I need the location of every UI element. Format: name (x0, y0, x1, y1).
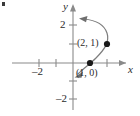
point-2-1-dot (104, 41, 110, 47)
y-axis (70, 4, 76, 110)
y-tick-label-2: 2 (60, 19, 66, 30)
x-axis (12, 60, 126, 66)
point-label-2-1: (2, 1) (77, 38, 99, 48)
parabola-graph-figure: y x –2 2 –2 (2, 1) (1, 0) (0, 0, 140, 116)
point-1-0-dot (87, 60, 93, 66)
y-axis-label: y (63, 1, 68, 12)
x-tick-label-minus-2: –2 (32, 66, 43, 77)
coordinate-plane-svg (0, 0, 140, 116)
x-axis-label: x (128, 64, 133, 75)
point-label-1-0: (1, 0) (76, 68, 98, 78)
y-tick-label-minus-2: –2 (56, 93, 67, 104)
